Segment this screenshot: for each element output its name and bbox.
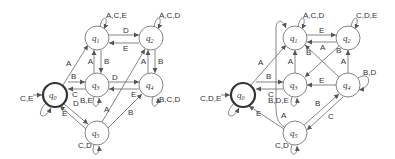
loop-label: C,E [20, 94, 33, 103]
edge-label: D [112, 73, 118, 82]
edge-label: A [258, 58, 264, 67]
loop-label: B,D [363, 68, 377, 77]
edge-q4-q5 [307, 97, 343, 130]
edge-label: B [104, 57, 109, 66]
loop-label: C,D,E [200, 94, 221, 103]
loop-label: A,C,D [303, 11, 325, 20]
state-q5: q5 [283, 121, 307, 145]
loop-q5 [291, 145, 297, 154]
edge-label: E [62, 109, 67, 118]
edge-label: A [288, 57, 294, 66]
loop-q4 [152, 97, 158, 106]
right-automaton: A B C E C,D,E A A,C,D E A A B B [200, 11, 377, 154]
edge-label: C [328, 112, 334, 121]
edge-label: A [341, 57, 347, 66]
edge-label: B [71, 72, 76, 81]
state-q2: q2 [336, 26, 360, 50]
edge-label: B [266, 72, 271, 81]
loop-label: B,C,D [159, 95, 181, 104]
edge-label: D [73, 99, 79, 108]
loop-label: B,D,E [268, 96, 289, 105]
edge-label: E [319, 76, 324, 85]
edge-label: E [256, 109, 261, 118]
loop-label: B,E [80, 96, 93, 105]
state-q5: q5 [85, 121, 109, 145]
edge-label: A [104, 105, 110, 114]
edge-label: A [320, 43, 326, 52]
edge-label: B [128, 108, 133, 117]
edge-q5-q4 [108, 94, 142, 128]
edge-label: D [123, 26, 129, 35]
loop-label: A,C,D [159, 11, 181, 20]
edge-label: C [72, 90, 78, 99]
state-q0: q0 [231, 83, 255, 107]
edge-label: A [141, 57, 147, 66]
loop-label: C,D,E [356, 11, 377, 20]
edge-label: A [281, 111, 287, 120]
state-q1: q1 [283, 26, 307, 50]
state-q4: q4 [139, 73, 163, 97]
edge-label: A [88, 57, 94, 66]
edge-label: A [66, 59, 72, 68]
edge-q5-q0 [249, 106, 284, 129]
edge-label: B [158, 57, 163, 66]
edge-label: B [306, 48, 311, 57]
loop-label: A,C,E [106, 11, 127, 20]
edge-label: E [123, 44, 128, 53]
loop-q3 [93, 97, 99, 106]
state-q0: q0 [43, 83, 67, 107]
left-automaton: A B C D E C,E A,C,E D E A B A,C,D [20, 11, 181, 154]
loop-q3 [291, 97, 297, 106]
state-q2: q2 [139, 26, 163, 50]
edge-label: E [131, 90, 136, 99]
state-q3: q3 [283, 73, 307, 97]
edge-label: E [319, 26, 324, 35]
edge-label: B [315, 99, 320, 108]
state-q4: q4 [336, 73, 360, 97]
state-q3: q3 [85, 73, 109, 97]
loop-q5 [93, 145, 99, 154]
state-q1: q1 [85, 26, 109, 50]
dfa-diagrams: A B C D E C,E A,C,E D E A B A,C,D [0, 0, 395, 159]
